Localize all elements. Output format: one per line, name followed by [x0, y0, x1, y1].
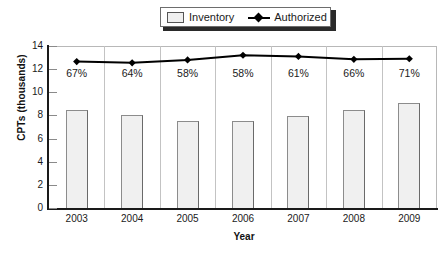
y-tick-label: 14: [17, 41, 43, 51]
legend-label-inventory: Inventory: [189, 12, 234, 23]
authorized-line-diamond-icon: [248, 12, 270, 23]
y-tick-mark: [49, 92, 57, 93]
percent-label-2003: 67%: [49, 68, 105, 79]
y-tick-label: 12: [17, 64, 43, 74]
percent-label-2007: 61%: [270, 68, 326, 79]
y-tick-mark: [49, 185, 57, 186]
percent-label-2005: 58%: [160, 68, 216, 79]
x-tick-label-2008: 2008: [326, 213, 382, 224]
y-tick-label: 0: [17, 203, 43, 213]
y-tick-mark: [49, 208, 57, 209]
percent-label-2006: 58%: [215, 68, 271, 79]
chart-container: Inventory Authorized CPTs (thousands) Ye…: [0, 0, 444, 253]
y-tick-label: 10: [17, 87, 43, 97]
percent-label-2009: 71%: [381, 68, 437, 79]
bar-inventory-2003: [66, 110, 88, 208]
x-tick-label-2007: 2007: [270, 213, 326, 224]
x-tick-label-2003: 2003: [49, 213, 105, 224]
y-tick-mark: [49, 139, 57, 140]
chart-legend: Inventory Authorized: [160, 7, 331, 27]
percent-label-2004: 64%: [104, 68, 160, 79]
bar-inventory-2006: [232, 121, 254, 208]
inventory-swatch-icon: [167, 12, 184, 23]
x-tick-label-2006: 2006: [215, 213, 271, 224]
y-tick-mark: [49, 46, 57, 47]
y-tick-label: 4: [17, 157, 43, 167]
bar-inventory-2008: [343, 110, 365, 208]
y-tick-label: 8: [17, 110, 43, 120]
legend-label-authorized: Authorized: [274, 12, 327, 23]
x-tick-label-2004: 2004: [104, 213, 160, 224]
x-tick-label-2009: 2009: [381, 213, 437, 224]
bar-inventory-2009: [398, 103, 420, 208]
legend-item-inventory: Inventory: [167, 8, 234, 26]
bar-inventory-2007: [287, 116, 309, 208]
percent-label-2008: 66%: [326, 68, 382, 79]
bar-inventory-2004: [121, 115, 143, 208]
x-axis-line: [47, 208, 438, 210]
y-tick-label: 2: [17, 180, 43, 190]
y-tick-mark: [49, 162, 57, 163]
y-tick-mark: [49, 115, 57, 116]
x-axis-title: Year: [48, 231, 440, 242]
y-tick-label: 6: [17, 134, 43, 144]
x-tick-label-2005: 2005: [160, 213, 216, 224]
bar-inventory-2005: [177, 121, 199, 208]
legend-item-authorized: Authorized: [248, 8, 327, 26]
